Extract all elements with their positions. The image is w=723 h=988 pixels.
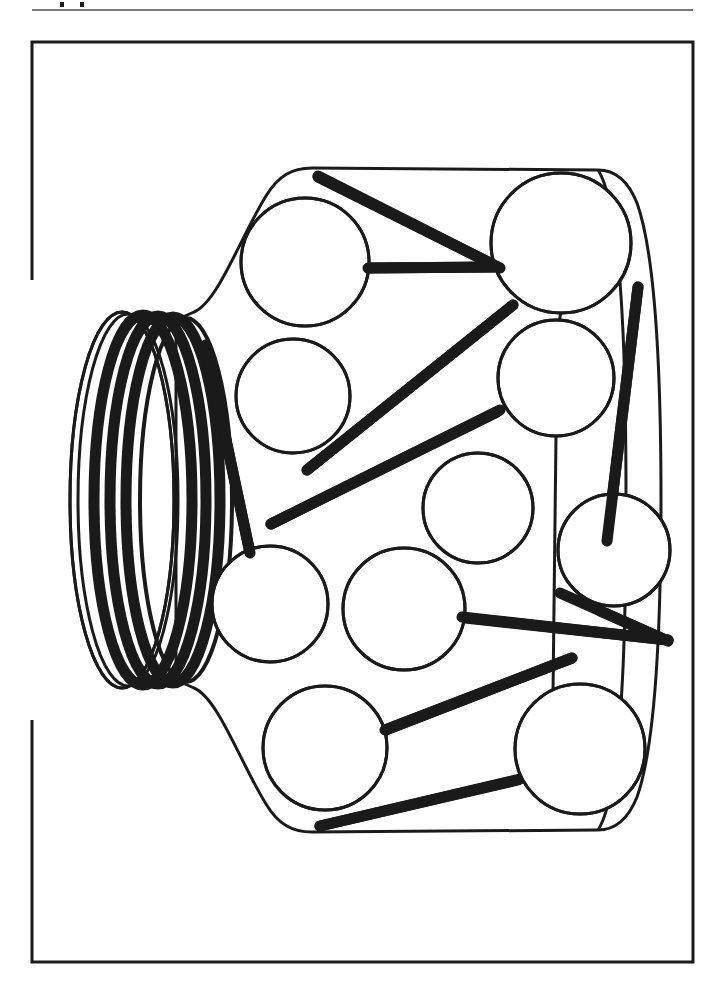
lollipop-stick-tail-2 bbox=[368, 267, 494, 268]
page-root: Lollipop Jar Coloring Page A wide-mouth … bbox=[0, 0, 723, 988]
tick-mark-left bbox=[60, 2, 64, 7]
illustration-canvas bbox=[0, 0, 723, 988]
tick-mark-right bbox=[80, 2, 84, 7]
